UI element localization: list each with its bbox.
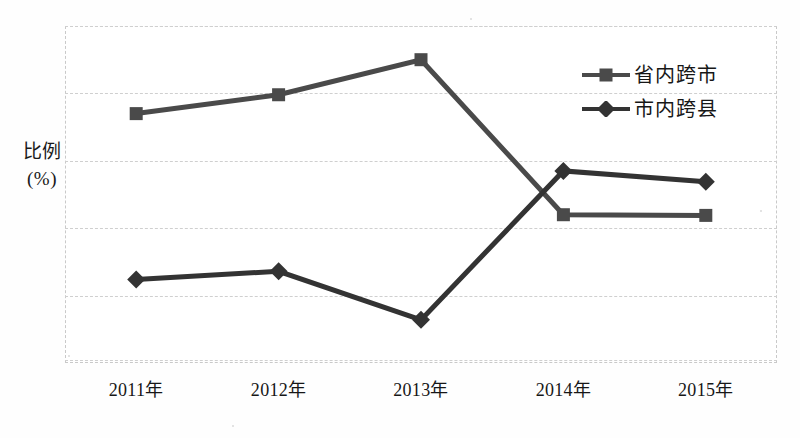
data-point-1-1 bbox=[130, 107, 143, 120]
legend-item-label: 市内跨县 bbox=[631, 99, 718, 119]
data-point-1-3 bbox=[415, 53, 428, 66]
legend-square-marker-icon bbox=[581, 67, 631, 83]
x-axis-tick-labels: 2011年2012年2013年2014年2015年 bbox=[65, 378, 777, 408]
chart-legend: 省内跨市市内跨县 bbox=[581, 58, 781, 126]
x-tick-label-5: 2015年 bbox=[646, 378, 766, 402]
legend-marker bbox=[600, 69, 613, 82]
series-line-2 bbox=[136, 171, 706, 320]
line-chart-figure: 比例(%) 省内跨市市内跨县 2011年2012年2013年2014年2015年 bbox=[0, 0, 800, 438]
legend-item-1[interactable]: 省内跨市 bbox=[581, 58, 781, 92]
data-point-2-2 bbox=[270, 262, 288, 280]
legend-item-2[interactable]: 市内跨县 bbox=[581, 92, 781, 126]
data-point-1-5 bbox=[699, 209, 712, 222]
legend-marker bbox=[597, 101, 615, 117]
data-point-1-2 bbox=[272, 88, 285, 101]
x-tick-label-2: 2012年 bbox=[219, 378, 339, 402]
data-point-1-4 bbox=[557, 208, 570, 221]
scan-speckle bbox=[760, 210, 762, 212]
x-tick-label-4: 2014年 bbox=[503, 378, 623, 402]
legend-diamond-marker-icon bbox=[581, 101, 631, 117]
x-tick-label-1: 2011年 bbox=[76, 378, 196, 402]
x-tick-label-3: 2013年 bbox=[361, 378, 481, 402]
scan-speckle bbox=[68, 355, 70, 357]
data-point-2-1 bbox=[127, 270, 145, 288]
y-axis-label: 比例(%) bbox=[14, 138, 70, 192]
data-point-2-5 bbox=[697, 173, 715, 191]
scan-speckle bbox=[470, 18, 472, 20]
scan-speckle bbox=[232, 425, 234, 427]
legend-item-label: 省内跨市 bbox=[631, 65, 718, 85]
